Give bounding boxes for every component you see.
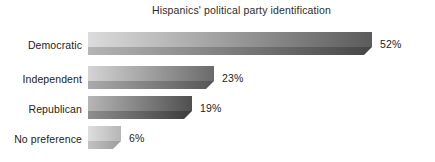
category-label-no-preference: No preference <box>14 133 82 145</box>
category-label-independent: Independent <box>23 73 83 85</box>
bar-face <box>88 126 121 141</box>
bar-republican <box>88 96 192 119</box>
value-label-republican: 19% <box>200 102 221 114</box>
bar-shadow-face <box>88 141 121 149</box>
bar-shadow-face <box>88 81 214 89</box>
category-label-democratic: Democratic <box>28 39 82 51</box>
bar-no-preference <box>88 126 121 149</box>
bar-shadow-face <box>88 47 372 55</box>
bar-democratic <box>88 32 372 55</box>
value-label-no-preference: 6% <box>129 132 144 144</box>
category-label-republican: Republican <box>28 103 82 115</box>
bar-face <box>88 32 372 47</box>
bar-shadow-face <box>88 111 192 119</box>
bar-face <box>88 66 214 81</box>
bar-independent <box>88 66 214 89</box>
value-label-independent: 23% <box>222 72 243 84</box>
plot-area: Democratic52%Independent23%Republican19%… <box>0 0 435 162</box>
bar-chart-figure: Hispanics' political party identificatio… <box>0 0 435 162</box>
bar-face <box>88 96 192 111</box>
value-label-democratic: 52% <box>380 38 401 50</box>
